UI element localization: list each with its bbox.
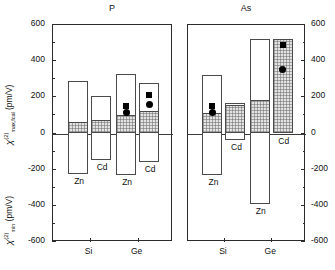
data-marker-square bbox=[209, 103, 215, 109]
y-axis-tick-label: -600 bbox=[0, 235, 45, 245]
y-axis-tick bbox=[52, 96, 56, 97]
y-axis-tick-label: -600 bbox=[311, 235, 328, 245]
y-axis-tick-label: 0 bbox=[0, 127, 45, 137]
bar-series-label: Cd bbox=[94, 162, 110, 172]
y-axis-tick bbox=[303, 42, 306, 43]
bar-series-label: Zn bbox=[205, 177, 221, 187]
y-axis-tick bbox=[301, 241, 305, 242]
y-axis-tick bbox=[301, 60, 305, 61]
bar-hatched-fill bbox=[225, 105, 245, 134]
data-marker-circle bbox=[279, 66, 286, 73]
y-axis-tick-label: -200 bbox=[311, 163, 328, 173]
bar-hatched-fill bbox=[250, 100, 270, 133]
x-axis-tick bbox=[271, 238, 272, 242]
y-axis-tick bbox=[52, 133, 56, 134]
data-marker-circle bbox=[123, 109, 130, 116]
y-axis-tick bbox=[303, 78, 306, 79]
y-axis-tick bbox=[52, 205, 56, 206]
y-axis-tick bbox=[303, 114, 306, 115]
y-axis-tick bbox=[52, 114, 55, 115]
y-axis-tick-label: 200 bbox=[311, 90, 325, 100]
y-axis-tick bbox=[52, 42, 55, 43]
bar-series-label: Cd bbox=[228, 142, 244, 152]
y-axis-tick bbox=[301, 96, 305, 97]
data-marker-square bbox=[146, 92, 152, 98]
x-axis-tick bbox=[224, 238, 225, 242]
y-axis-tick bbox=[303, 187, 306, 188]
x-axis-tick bbox=[90, 238, 91, 242]
y-axis-tick bbox=[301, 169, 305, 170]
bar-hatched-fill bbox=[273, 39, 293, 133]
chart-figure: χ(2)max,fcal (pm/V) χ(2)min (pm/V) P As … bbox=[0, 0, 335, 270]
x-axis-category-label: Si bbox=[209, 246, 237, 256]
y-axis-tick-label: 200 bbox=[0, 90, 45, 100]
y-axis-tick bbox=[52, 223, 55, 224]
bar-series-label: Zn bbox=[253, 206, 269, 216]
y-axis-tick bbox=[52, 24, 56, 25]
y-axis-tick-label: 0 bbox=[311, 127, 316, 137]
y-axis-tick bbox=[301, 205, 305, 206]
bar-hatched-fill bbox=[91, 120, 111, 133]
panel-title-as: As bbox=[187, 3, 305, 13]
y-axis-tick bbox=[301, 24, 305, 25]
bar-hatched-fill bbox=[116, 115, 136, 133]
plot-panel-as: ZnCdZnCd bbox=[187, 24, 305, 241]
bar-series-label: Cd bbox=[142, 164, 158, 174]
bar-hatched-fill bbox=[68, 122, 88, 133]
bar-hatched-fill bbox=[139, 111, 159, 134]
y-axis-tick-label: -200 bbox=[0, 163, 45, 173]
y-axis-tick bbox=[52, 60, 56, 61]
bar-hatched-fill bbox=[202, 113, 222, 133]
bar-series-label: Cd bbox=[276, 136, 292, 146]
bar-series-label: Zn bbox=[119, 177, 135, 187]
data-marker-circle bbox=[146, 101, 153, 108]
y-axis-tick-label: 600 bbox=[0, 18, 45, 28]
y-axis-tick bbox=[52, 187, 55, 188]
y-axis-tick bbox=[52, 169, 56, 170]
y-axis-tick bbox=[301, 133, 305, 134]
y-axis-tick-label: 400 bbox=[0, 54, 45, 64]
x-axis-category-label: Si bbox=[75, 246, 103, 256]
data-marker-circle bbox=[209, 109, 216, 116]
bar-series-label: Zn bbox=[71, 176, 87, 186]
y-axis-tick bbox=[52, 78, 55, 79]
y-axis-tick-label: -400 bbox=[0, 199, 45, 209]
y-axis-tick-label: -400 bbox=[311, 199, 328, 209]
y-axis-tick bbox=[52, 241, 56, 242]
y-axis-tick bbox=[52, 151, 55, 152]
x-axis-category-label: Ge bbox=[256, 246, 284, 256]
y-axis-tick-label: 600 bbox=[311, 18, 325, 28]
panel-title-p: P bbox=[52, 3, 172, 13]
x-axis-tick bbox=[138, 238, 139, 242]
y-axis-tick-label: 400 bbox=[311, 54, 325, 64]
x-axis-category-label: Ge bbox=[123, 246, 151, 256]
data-marker-square bbox=[123, 103, 129, 109]
plot-panel-p: ZnCdZnCd bbox=[52, 24, 172, 241]
y-axis-tick bbox=[303, 223, 306, 224]
y-axis-tick bbox=[303, 151, 306, 152]
data-marker-square bbox=[280, 42, 286, 48]
